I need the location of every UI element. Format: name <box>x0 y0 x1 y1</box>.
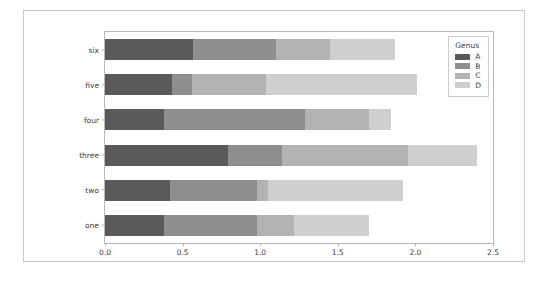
legend-label: A <box>475 53 480 61</box>
bar-segment-b <box>164 215 257 236</box>
bar-segment-a <box>105 145 228 166</box>
bar-row: one <box>105 215 369 236</box>
bar-segment-c <box>276 39 330 60</box>
y-axis-tick <box>102 119 105 120</box>
legend-label: B <box>475 63 480 71</box>
bar-segment-c <box>257 215 294 236</box>
chart-axes: sixfivefourthreetwoone0.00.51.01.52.02.5… <box>104 31 494 244</box>
y-axis-label-three: three <box>79 151 99 160</box>
bar-segment-d <box>330 39 395 60</box>
legend-item-d[interactable]: D <box>455 82 481 90</box>
bar-segment-c <box>192 74 266 95</box>
y-axis-label-two: two <box>85 186 99 195</box>
legend-label: D <box>475 82 481 90</box>
x-axis-tick <box>338 243 339 246</box>
chart-legend[interactable]: Genus ABCD <box>448 36 489 97</box>
legend-title: Genus <box>455 41 481 50</box>
y-axis-label-five: five <box>85 80 99 89</box>
bar-segment-b <box>193 39 275 60</box>
legend-swatch-icon <box>455 54 470 60</box>
x-axis-label: 0.5 <box>177 248 189 257</box>
x-axis-label: 1.0 <box>254 248 266 257</box>
bar-segment-c <box>257 180 268 201</box>
bar-segment-d <box>266 74 417 95</box>
legend-swatch-icon <box>455 63 470 69</box>
bar-segment-b <box>170 180 257 201</box>
bar-segment-a <box>105 74 172 95</box>
y-axis-tick <box>102 155 105 156</box>
bar-row: two <box>105 180 403 201</box>
y-axis-label-six: six <box>89 45 99 54</box>
bar-segment-d <box>268 180 403 201</box>
legend-swatch-icon <box>455 73 470 79</box>
bar-segment-c <box>305 109 369 130</box>
plot-area: sixfivefourthreetwoone0.00.51.01.52.02.5 <box>105 32 493 243</box>
x-axis-label: 2.0 <box>409 248 421 257</box>
x-axis-tick <box>260 243 261 246</box>
x-axis-tick <box>493 243 494 246</box>
x-axis-label: 1.5 <box>332 248 344 257</box>
x-axis-tick <box>183 243 184 246</box>
y-axis-tick <box>102 84 105 85</box>
bar-segment-d <box>369 109 391 130</box>
bar-segment-d <box>408 145 478 166</box>
bar-segment-a <box>105 215 164 236</box>
y-axis-tick <box>102 190 105 191</box>
bar-row: five <box>105 74 417 95</box>
legend-item-c[interactable]: C <box>455 72 481 80</box>
bar-row: six <box>105 39 395 60</box>
x-axis-tick <box>415 243 416 246</box>
bar-segment-d <box>294 215 368 236</box>
bar-row: three <box>105 145 477 166</box>
bar-segment-c <box>282 145 408 166</box>
legend-label: C <box>475 72 480 80</box>
x-axis-label: 2.5 <box>487 248 499 257</box>
legend-entries: ABCD <box>455 53 481 89</box>
y-axis-tick <box>102 225 105 226</box>
y-axis-label-one: one <box>85 221 99 230</box>
bar-row: four <box>105 109 391 130</box>
bar-segment-b <box>172 74 192 95</box>
legend-swatch-icon <box>455 82 470 88</box>
bar-segment-a <box>105 180 170 201</box>
bar-segment-b <box>164 109 305 130</box>
x-axis-label: 0.0 <box>99 248 111 257</box>
bar-segment-a <box>105 109 164 130</box>
bar-segment-a <box>105 39 193 60</box>
bar-segment-b <box>228 145 282 166</box>
y-axis-tick <box>102 49 105 50</box>
legend-item-b[interactable]: B <box>455 63 481 71</box>
legend-item-a[interactable]: A <box>455 53 481 61</box>
x-axis-tick <box>105 243 106 246</box>
y-axis-label-four: four <box>84 115 99 124</box>
figure-panel: sixfivefourthreetwoone0.00.51.01.52.02.5… <box>23 10 525 262</box>
